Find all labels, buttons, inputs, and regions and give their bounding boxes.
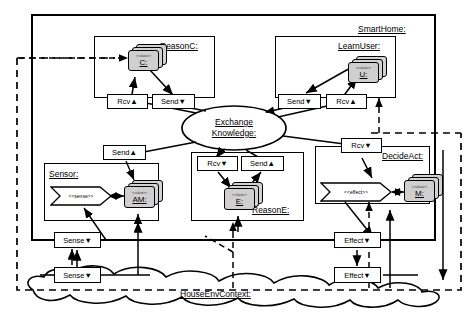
decideact-port-rcv-label: Rcv▼ <box>351 141 371 150</box>
reasone-port-rcv[interactable]: Rcv▼ <box>197 156 238 171</box>
reasone-port-send[interactable]: Send▲ <box>241 156 284 171</box>
stack-sheet-front: <<class>> C: <box>128 50 159 71</box>
hub-line-1: Exchange <box>215 117 253 127</box>
learnuser-port-rcv[interactable]: Rcv▲ <box>326 94 367 109</box>
reasone-port-send-label: Send▲ <box>250 159 275 168</box>
class-name: M: <box>415 189 424 198</box>
house-env-context-label: HouseEnvContext: <box>180 289 251 299</box>
boundary-port-sense-inner-label: Sense▼ <box>63 236 92 245</box>
boundary-port-sense-outer-label: Sense▼ <box>63 271 92 280</box>
reasone-class-component: <<class>> E: <box>224 182 264 212</box>
boundary-port-effect-outer-label: Effect▼ <box>344 271 370 280</box>
learnuser-class-component: <<class>> U: <box>348 56 388 84</box>
reasonc-port-rcv[interactable]: Rcv▲ <box>107 94 148 109</box>
sensor-class-component: <<class>> AM: <box>124 180 164 210</box>
class-name: E: <box>236 197 244 206</box>
hub-line-2: Knowledge: <box>212 128 256 138</box>
class-name: U: <box>360 70 368 79</box>
class-name: AM: <box>132 195 146 204</box>
reasonc-port-send-label: Send▼ <box>161 97 186 106</box>
decideact-effect-interface: <<effect>> <box>320 182 392 202</box>
decideact-port-rcv[interactable]: Rcv▼ <box>341 138 382 153</box>
stack-sheet-front: <<class>> U: <box>348 62 379 83</box>
reasone-port-rcv-label: Rcv▼ <box>207 159 227 168</box>
learnuser-port-send[interactable]: Send▼ <box>278 94 321 109</box>
stack-sheet-front: <<class>> M: <box>404 180 435 202</box>
learnuser-port-send-label: Send▼ <box>287 97 312 106</box>
decideact-class-component: <<class>> M: <box>404 174 444 204</box>
stack-sheet-front: <<class>> E: <box>224 188 255 210</box>
boundary-port-effect-inner[interactable]: Effect▼ <box>334 232 381 248</box>
decideact-label: DecideAct: <box>382 152 423 161</box>
sensor-sense-interface: <<sense>> <box>50 186 112 206</box>
class-name: C: <box>140 58 148 67</box>
boundary-port-sense-inner[interactable]: Sense▼ <box>54 232 101 248</box>
sensor-port-send[interactable]: Send▲ <box>103 145 146 160</box>
sense-interface-stereotype: <<sense>> <box>68 193 93 199</box>
sensor-label: Sensor: <box>49 170 78 179</box>
reasonc-port-send[interactable]: Send▼ <box>152 94 195 109</box>
smarthome-label: SmartHome: <box>358 25 406 34</box>
exchange-knowledge-label: Exchange Knowledge: <box>184 117 284 138</box>
effect-interface-stereotype: <<effect>> <box>344 189 368 195</box>
reasonc-class-component: <<class>> C: <box>128 44 168 72</box>
stack-sheet-front: <<class>> AM: <box>124 186 155 208</box>
sensor-port-send-label: Send▲ <box>112 148 137 157</box>
reasonc-port-rcv-label: Rcv▲ <box>117 97 137 106</box>
learnuser-port-rcv-label: Rcv▲ <box>336 97 356 106</box>
learnuser-label: LearnUser: <box>338 42 380 51</box>
boundary-port-effect-outer[interactable]: Effect▼ <box>334 267 381 283</box>
boundary-port-sense-outer[interactable]: Sense▼ <box>54 267 101 283</box>
boundary-port-effect-inner-label: Effect▼ <box>344 236 370 245</box>
diagram-canvas: SmartHome: ReasonC: <<class>> C: Rcv▲ Se… <box>0 0 469 321</box>
